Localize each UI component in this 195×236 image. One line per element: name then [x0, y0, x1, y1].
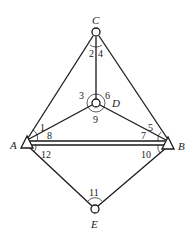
station-D-circle-icon: [92, 99, 100, 107]
angle-9: 9: [93, 114, 98, 125]
angle-arc-B-lower: [158, 145, 160, 153]
label-E: E: [90, 218, 98, 230]
label-C: C: [92, 14, 100, 26]
angle-4: 4: [98, 48, 103, 59]
angle-12: 12: [41, 149, 51, 160]
label-B: B: [178, 140, 185, 152]
edge-B-E: [98, 148, 166, 206]
edge-A-E: [29, 147, 92, 206]
angle-3: 3: [79, 90, 84, 101]
angle-7: 7: [141, 130, 146, 141]
label-D: D: [111, 97, 120, 109]
angle-6: 6: [105, 90, 110, 101]
station-E-circle-icon: [91, 205, 99, 213]
angle-5: 5: [148, 122, 153, 133]
angle-8: 8: [47, 130, 52, 141]
angle-10: 10: [141, 149, 151, 160]
angle-arc-A-lower: [34, 145, 36, 152]
label-A: A: [9, 139, 17, 151]
angle-arc-E: [88, 198, 102, 201]
angle-11: 11: [89, 187, 99, 198]
angle-1: 1: [40, 122, 45, 133]
angle-2: 2: [89, 48, 94, 59]
triangulation-diagram: C D A B E 1 2 3 4 5 6 7 8 9 10 11 12: [0, 0, 195, 236]
station-C-circle-icon: [92, 28, 100, 36]
